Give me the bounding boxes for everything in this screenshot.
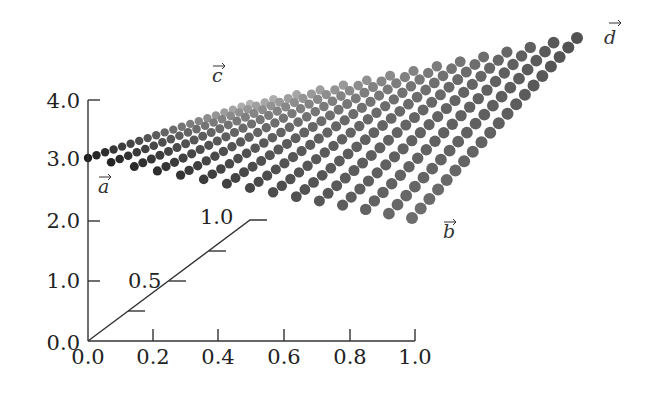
- surface-dot: [394, 106, 405, 117]
- surface-dot: [231, 173, 241, 183]
- surface-dot: [253, 128, 262, 137]
- surface-dot: [288, 152, 298, 162]
- surface-dot: [484, 63, 495, 74]
- surface-dot: [392, 127, 403, 138]
- surface-dot: [227, 142, 236, 151]
- surface-dot: [273, 145, 283, 155]
- surface-dot: [400, 120, 411, 131]
- surface-dot: [571, 32, 583, 44]
- surface-dot: [432, 184, 444, 196]
- surface-dot: [464, 101, 475, 112]
- surface-dot: [264, 111, 273, 120]
- surface-dot: [493, 55, 504, 66]
- surface-dot: [118, 142, 126, 150]
- surface-dot: [412, 153, 423, 164]
- surface-dot: [510, 98, 522, 110]
- surface-dot: [176, 170, 185, 179]
- surface-dot: [340, 173, 351, 184]
- surface-dot: [325, 163, 336, 174]
- surface-dot: [311, 107, 321, 117]
- surface-dot: [438, 70, 449, 81]
- surface-dot: [276, 128, 286, 138]
- surface-dot: [426, 97, 437, 108]
- surface-dot: [187, 149, 196, 158]
- x-tick-label: 0.6: [267, 345, 300, 369]
- surface-dot: [548, 37, 560, 49]
- surface-dot: [467, 79, 478, 90]
- surface-dot: [130, 162, 139, 171]
- surface-dot: [484, 127, 496, 139]
- surface-dot: [343, 149, 354, 160]
- surface-dot: [418, 104, 429, 115]
- surface-dot: [311, 154, 321, 164]
- z-tick-label: 3.0: [47, 147, 80, 171]
- surface-dot: [354, 121, 364, 131]
- surface-dot: [107, 158, 116, 167]
- z-tick-label: 4.0: [47, 89, 80, 113]
- surface-dot: [455, 56, 466, 67]
- surface-dot: [244, 133, 253, 142]
- surface-dot: [470, 118, 482, 130]
- surface-dot: [397, 88, 407, 98]
- surface-dot: [386, 178, 397, 189]
- surface-dot: [179, 154, 188, 163]
- surface-dot: [412, 92, 423, 103]
- surface-dot: [323, 188, 334, 199]
- surface-dot: [426, 163, 438, 175]
- surface-dot: [392, 199, 404, 211]
- surface-dot: [449, 165, 461, 177]
- surface-dot: [308, 177, 319, 188]
- surface-dot: [342, 99, 352, 109]
- surface-dot: [421, 144, 432, 155]
- surface-dot: [507, 59, 518, 70]
- surface-dot: [147, 155, 156, 164]
- surface-dot: [277, 181, 287, 191]
- surface-dot: [175, 132, 184, 141]
- surface-dot: [173, 143, 182, 152]
- surface-dot: [268, 133, 278, 143]
- surface-dot: [340, 115, 350, 125]
- surface-dot: [400, 190, 412, 202]
- surface-dot: [493, 117, 505, 129]
- surface-dot: [389, 94, 399, 104]
- surface-dot: [190, 136, 199, 145]
- surface-dot: [562, 42, 574, 54]
- surface-dot: [336, 91, 346, 101]
- surface-dot: [328, 141, 338, 151]
- surface-dot: [519, 89, 531, 101]
- surface-dot: [501, 47, 512, 58]
- surface-dot: [219, 147, 228, 156]
- surface-dot: [461, 67, 472, 78]
- surface-dot: [349, 165, 360, 176]
- surface-dot: [528, 79, 540, 91]
- surface-dot: [247, 119, 256, 128]
- surface-dot: [207, 128, 216, 137]
- surface-dot: [126, 140, 134, 148]
- surface-dot: [346, 192, 357, 203]
- surface-dot: [210, 152, 219, 161]
- surface-dot: [377, 187, 388, 198]
- surface-dot: [293, 117, 303, 127]
- surface-dot: [536, 70, 548, 82]
- surface-dot: [389, 151, 400, 162]
- surface-dot: [204, 141, 213, 150]
- surface-dot: [386, 113, 397, 124]
- surface-dot: [334, 156, 345, 167]
- surface-dot: [354, 183, 365, 194]
- z-tick-label: 1.0: [47, 269, 80, 293]
- surface-dot: [502, 108, 514, 120]
- svg-text:a: a: [98, 175, 109, 197]
- surface-dot: [181, 139, 190, 148]
- surface-dot: [224, 120, 233, 129]
- surface-dot: [300, 184, 311, 195]
- surface-dot: [279, 158, 289, 168]
- surface-dot: [285, 174, 295, 184]
- surface-dot: [239, 167, 249, 177]
- surface-dot: [368, 82, 378, 92]
- surface-dot: [455, 110, 466, 121]
- surface-dot: [196, 145, 205, 154]
- surface-dot: [199, 175, 209, 185]
- surface-dot: [346, 127, 356, 137]
- surface-dot: [296, 104, 305, 113]
- surface-dot: [302, 112, 312, 122]
